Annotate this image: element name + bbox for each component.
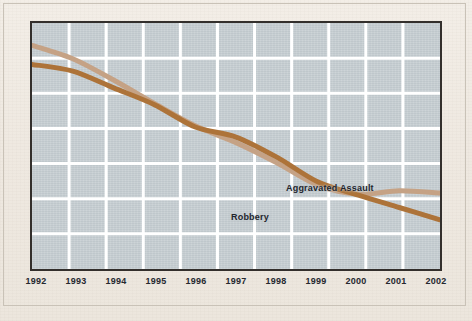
x-tick-label: 1998 bbox=[266, 276, 287, 286]
series-label-aggravated-assault: Aggravated Assault bbox=[286, 183, 374, 193]
x-tick-label: 1997 bbox=[226, 276, 247, 286]
chart-plot-area bbox=[30, 21, 442, 271]
x-tick-label: 2001 bbox=[386, 276, 407, 286]
x-tick-label: 1994 bbox=[106, 276, 127, 286]
x-tick-label: 1993 bbox=[66, 276, 87, 286]
x-tick-label: 1999 bbox=[306, 276, 327, 286]
x-axis-tick-labels: 1992199319941995199619971998199920002001… bbox=[30, 276, 442, 292]
poster-background: Aggravated Assault Robbery 1992199319941… bbox=[0, 0, 472, 321]
x-tick-label: 1995 bbox=[146, 276, 167, 286]
x-tick-label: 1996 bbox=[186, 276, 207, 286]
x-tick-label: 2000 bbox=[346, 276, 367, 286]
series-label-robbery: Robbery bbox=[231, 212, 269, 222]
chart-series-lines bbox=[32, 23, 440, 269]
series-line-robbery bbox=[32, 45, 440, 194]
x-tick-label: 1992 bbox=[26, 276, 47, 286]
x-tick-label: 2002 bbox=[426, 276, 447, 286]
